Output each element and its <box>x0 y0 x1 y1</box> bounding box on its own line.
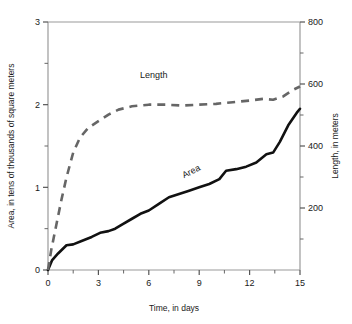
x-tick-label: 0 <box>45 278 50 288</box>
y-tick-label: 0 <box>35 265 40 275</box>
x-tick-label: 6 <box>146 278 151 288</box>
area-axis-ticks: 0123 <box>35 17 48 275</box>
y2-tick-label: 200 <box>308 203 323 213</box>
chart-figure: 0123 200400600800 03691215 AreaLength Ti… <box>0 0 352 324</box>
y2-axis-title: Length, in meters <box>330 113 340 179</box>
data-series-group <box>48 86 300 270</box>
x-axis-title: Time, in days <box>149 303 199 313</box>
x-tick-label: 12 <box>245 278 255 288</box>
y-tick-label: 1 <box>35 183 40 193</box>
y2-tick-label: 600 <box>308 79 323 89</box>
series-line-length <box>48 86 300 270</box>
chart-svg: 0123 200400600800 03691215 AreaLength Ti… <box>0 0 352 324</box>
x-tick-label: 9 <box>197 278 202 288</box>
series-label-area: Area <box>180 163 201 180</box>
y-tick-label: 2 <box>35 100 40 110</box>
series-label-length: Length <box>140 70 168 80</box>
y-tick-label: 3 <box>35 17 40 27</box>
y-axis-title: Area, in tens of thousands of square met… <box>6 64 16 229</box>
series-annotations: AreaLength <box>140 70 202 180</box>
x-tick-label: 3 <box>96 278 101 288</box>
series-line-area <box>48 109 300 270</box>
length-axis-ticks: 200400600800 <box>300 17 323 239</box>
plot-frame <box>48 22 300 270</box>
x-tick-label: 15 <box>295 278 305 288</box>
y2-tick-label: 800 <box>308 17 323 27</box>
time-axis-ticks: 03691215 <box>45 270 305 288</box>
y2-tick-label: 400 <box>308 141 323 151</box>
